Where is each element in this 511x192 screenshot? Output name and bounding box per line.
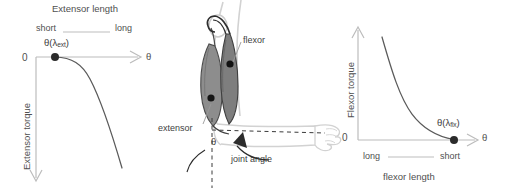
flexor-spindle-marker (226, 60, 233, 67)
figure-root: Extensor length short long 0 θ(λext) θ E… (0, 0, 511, 192)
right-threshold-marker (450, 136, 458, 144)
right-plot-graphics (330, 0, 511, 192)
joint-angle-arc (187, 150, 205, 172)
arm-anatomy-diagram: flexor extensor joint angle θ (165, 0, 345, 192)
left-threshold-marker (51, 53, 59, 61)
left-plot-graphics (0, 0, 170, 192)
extensor-muscle-shape (201, 44, 222, 126)
left-torque-curve (55, 57, 122, 168)
arm-graphics (165, 0, 345, 192)
flexor-torque-angle-plot: 0 Flexor torque θ(λflx) θ long short fle… (330, 0, 511, 192)
right-torque-curve (382, 37, 454, 140)
forearm-outline-top (217, 124, 328, 132)
extensor-spindle-marker (207, 94, 214, 101)
forearm-reference-dashed-line (212, 130, 325, 133)
joint-angle-pointer-curve (237, 146, 269, 160)
shoulder-joint-circle (209, 15, 227, 37)
flexor-muscle-shape (221, 34, 238, 124)
extensor-torque-angle-plot: Extensor length short long 0 θ(λext) θ E… (0, 0, 170, 192)
